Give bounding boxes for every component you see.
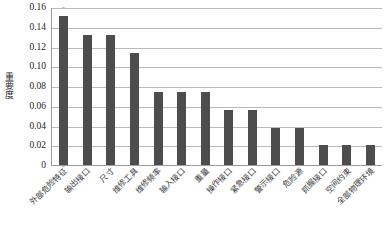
bar <box>295 128 304 165</box>
bar-chart: 重要度 0.160.140.120.100.080.060.040.020 外部… <box>0 0 386 230</box>
bar <box>106 35 115 165</box>
y-axis-tick-label: 0.06 <box>29 102 46 112</box>
bar <box>319 145 328 165</box>
bar <box>177 92 186 165</box>
y-axis-tick-label: 0.16 <box>29 3 46 13</box>
x-axis-tick-labels: 外部危险特征输出接口尺寸维修工具维修频率输入接口重量操作接口紧急接口警示接口危险… <box>51 167 382 230</box>
x-axis-tick-label: 抓握接口 <box>300 167 329 196</box>
x-axis-tick-label: 尺寸 <box>99 167 116 184</box>
bar <box>83 35 92 165</box>
bar <box>130 53 139 165</box>
bar-slot <box>99 8 123 165</box>
y-axis-tick-label: 0.04 <box>29 122 46 132</box>
y-axis-tick-label: 0.08 <box>29 82 46 92</box>
bar <box>59 16 68 165</box>
y-axis-tick-label: 0.02 <box>29 142 46 152</box>
x-axis-tick-label: 输入接口 <box>158 167 187 196</box>
bar-slot <box>76 8 100 165</box>
bar <box>342 145 351 165</box>
y-axis-tick-label: 0.14 <box>29 23 46 33</box>
bar-slot <box>335 8 359 165</box>
bar <box>271 128 280 165</box>
y-axis-tick-label: 0.10 <box>29 63 46 73</box>
bar <box>224 110 233 165</box>
y-axis-tick-label: 0 <box>41 161 46 171</box>
bar-slot <box>264 8 288 165</box>
bar-slot <box>241 8 265 165</box>
bar-slot <box>217 8 241 165</box>
bar-slot <box>146 8 170 165</box>
y-axis-tick-label: 0.12 <box>29 43 46 53</box>
x-axis-tick-label: 紧急接口 <box>229 167 258 196</box>
plot-area <box>51 8 382 166</box>
bar-slot <box>170 8 194 165</box>
bar-slot <box>193 8 217 165</box>
bar <box>201 92 210 165</box>
bar-slot <box>123 8 147 165</box>
bar <box>248 110 257 165</box>
y-axis-tick-labels: 0.160.140.120.100.080.060.040.020 <box>14 8 48 166</box>
x-axis-tick-label: 重量 <box>193 167 210 184</box>
bar-slot <box>311 8 335 165</box>
bar <box>154 92 163 165</box>
bar-series <box>52 8 382 165</box>
bar-slot <box>288 8 312 165</box>
bar <box>366 145 375 165</box>
bar-slot <box>52 8 76 165</box>
bar-slot <box>359 8 383 165</box>
